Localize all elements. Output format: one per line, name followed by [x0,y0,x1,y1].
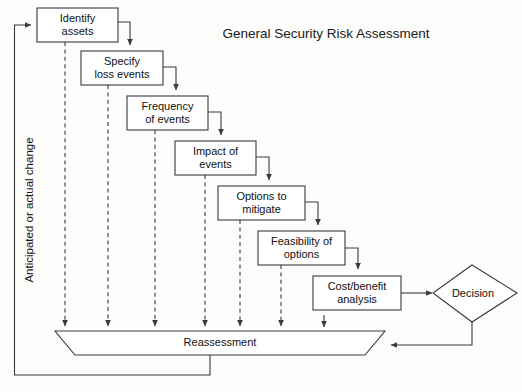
node-frequency-of-events-line2: of events [145,113,190,125]
node-options-to-mitigate-line2: mitigate [242,203,281,215]
node-specify-loss-events[interactable]: Specify loss events [81,51,163,85]
page-title: General Security Risk Assessment [222,26,429,41]
node-decision-label: Decision [452,287,494,299]
node-cost-benefit-analysis-line2: analysis [337,293,377,305]
node-identify-assets-line2: assets [62,25,94,37]
node-feasibility-of-options[interactable]: Feasibility of options [258,231,345,265]
node-decision[interactable]: Decision [433,265,517,322]
node-cost-benefit-analysis[interactable]: Cost/benefit analysis [313,276,401,310]
node-impact-of-events[interactable]: Impact of events [175,141,256,175]
node-feasibility-of-options-line1: Feasibility of [271,235,333,247]
connector-frequency-to-impact [208,112,221,135]
connector-feasibility-to-cost-benefit [345,248,358,269]
security-risk-assessment-flowchart: Identify assets Specify loss events Freq… [0,0,522,392]
node-frequency-of-events-line1: Frequency [142,100,194,112]
connector-decision-to-reassessment [391,322,472,345]
node-feasibility-of-options-line2: options [284,248,320,260]
connector-identify-to-specify [118,22,130,45]
node-reassessment[interactable]: Reassessment [55,331,385,355]
node-impact-of-events-line1: Impact of [193,145,239,157]
node-specify-loss-events-line1: Specify [104,55,141,67]
side-label-anticipated-or-actual-change: Anticipated or actual change [23,137,35,282]
node-options-to-mitigate[interactable]: Options to mitigate [218,186,305,220]
node-identify-assets-line1: Identify [60,12,96,24]
connector-specify-to-frequency [163,67,176,90]
node-cost-benefit-analysis-line1: Cost/benefit [328,280,387,292]
connector-options-to-feasibility [305,202,318,225]
node-specify-loss-events-line2: loss events [94,68,150,80]
node-identify-assets[interactable]: Identify assets [37,8,118,42]
node-impact-of-events-line2: events [199,158,232,170]
node-reassessment-label: Reassessment [184,336,257,348]
diagram-canvas: Identify assets Specify loss events Freq… [0,0,522,392]
node-frequency-of-events[interactable]: Frequency of events [127,96,208,130]
connector-impact-to-options [256,157,269,180]
node-options-to-mitigate-line1: Options to [236,190,286,202]
